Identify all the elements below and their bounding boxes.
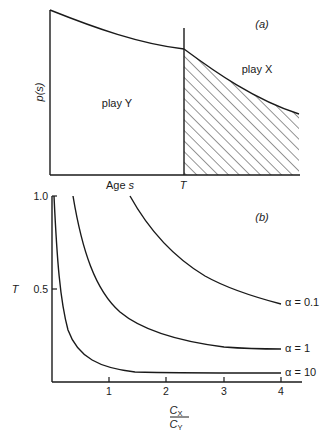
t-marker-label: T bbox=[180, 179, 188, 191]
curve-alpha-1 bbox=[73, 196, 281, 349]
x-axis-label-b: CX CY bbox=[170, 404, 189, 432]
region-label-play-y: play Y bbox=[102, 97, 133, 109]
x-tick-label-4: 4 bbox=[278, 385, 284, 397]
x-axis-label-a: Age s bbox=[106, 179, 135, 191]
region-label-play-x: play X bbox=[242, 63, 273, 75]
svg-text:CX: CX bbox=[170, 404, 183, 418]
y-axis-label-a: p(s) bbox=[33, 82, 45, 102]
panel-b-tag: (b) bbox=[255, 211, 269, 223]
svg-text:CY: CY bbox=[170, 418, 183, 432]
panel-a: (a) p(s) play Y play X Age s T bbox=[33, 10, 304, 191]
legend-alpha-1: α = 1 bbox=[285, 342, 310, 354]
x-tick-label-1: 1 bbox=[106, 385, 112, 397]
ps-curve-left bbox=[50, 10, 184, 49]
y-axis-label-b: T bbox=[12, 283, 20, 295]
x-tick-label-3: 3 bbox=[221, 385, 227, 397]
x-tick-label-2: 2 bbox=[163, 385, 169, 397]
curve-alpha-10 bbox=[54, 196, 281, 373]
panel-a-tag: (a) bbox=[255, 18, 269, 30]
y-tick-label-0.5: 0.5 bbox=[33, 283, 48, 295]
y-tick-label-1: 1.0 bbox=[33, 190, 48, 202]
legend-alpha-0.1: α = 0.1 bbox=[285, 296, 319, 308]
figure: (a) p(s) play Y play X Age s T 1.0 0.5 T… bbox=[0, 0, 328, 432]
panel-b: 1.0 0.5 T 1 2 3 4 CX CY (b) α = 0.1 α = … bbox=[12, 190, 320, 432]
legend-alpha-10: α = 10 bbox=[285, 366, 316, 378]
